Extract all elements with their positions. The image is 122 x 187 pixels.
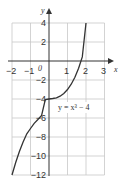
svg-text:−1: −1	[24, 66, 34, 76]
svg-text:4: 4	[41, 18, 46, 28]
x-axis-arrow-icon	[108, 58, 114, 64]
svg-text:−8: −8	[36, 132, 46, 142]
axes	[8, 12, 111, 176]
svg-text:1: 1	[64, 66, 69, 76]
grid	[12, 23, 105, 175]
equation-label: y = x³ − 4	[58, 103, 89, 112]
svg-text:−12: −12	[31, 170, 46, 180]
svg-text:3: 3	[101, 66, 106, 76]
x-axis-label: x	[113, 65, 118, 74]
chart: x y 0 −2 −1 1 2 3 4 2 −2 −4 −6 −8 −10 −1…	[0, 0, 122, 187]
svg-text:−10: −10	[31, 151, 46, 161]
svg-text:−2: −2	[36, 75, 46, 85]
y-axis-arrow-icon	[46, 8, 52, 14]
svg-text:2: 2	[41, 37, 46, 47]
svg-text:−6: −6	[36, 113, 46, 123]
x-ticks: −2 −1 1 2 3	[6, 66, 106, 76]
y-axis-label: y	[40, 6, 45, 15]
svg-text:−2: −2	[6, 66, 16, 76]
svg-text:2: 2	[83, 66, 88, 76]
origin-label: 0	[38, 64, 42, 73]
